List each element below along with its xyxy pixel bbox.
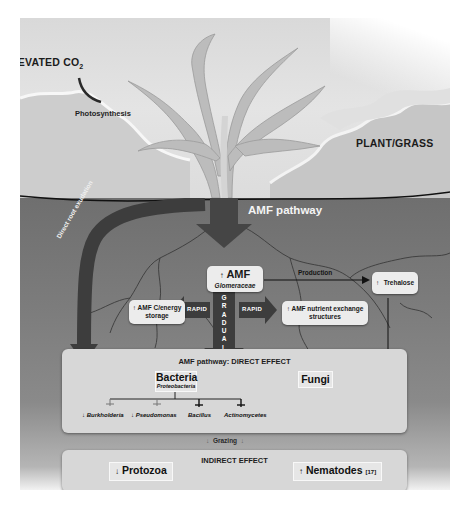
trehalose-box: ↑ Trehalose [372,272,418,294]
direct-effect-title: AMF pathway: DIRECT EFFECT [62,357,407,366]
fungi-box: Fungi [298,371,333,388]
amf-box: ↑ AMF Glomeraceae [207,266,263,292]
rapid-right-label: RAPID [242,306,262,312]
amf-nutrient-exchange-box: ↑ AMF nutrient exchange structures [282,301,368,325]
co2-uptake-arrow-icon [75,76,105,106]
protozoa-box: ↓ Protozoa [109,462,173,481]
genus-burkholderia: ↓ Burkholderia [82,412,124,418]
indirect-effect-panel: INDIRECT EFFECT ↓ Protozoa ↑ Nematodes [… [62,450,407,490]
production-label: Production [298,269,332,276]
genus-actinomycetes: Actinomycetes [224,412,267,418]
gradual-label: G R A D U A L [219,294,229,352]
genus-pseudomonas: ↓ Pseudomonas [131,412,177,418]
rapid-left-label: RAPID [187,306,207,312]
elevated-co2-label: ELEVATED CO2 [20,56,83,70]
direct-effect-panel: AMF pathway: DIRECT EFFECT Bacteria Prot… [62,349,407,433]
photosynthesis-label: Photosynthesis [75,109,131,118]
nematodes-box: ↑ Nematodes [17] [293,462,382,481]
diagram-frame: ELEVATED CO2 Photosynthesis PLANT/GRASS … [20,18,450,490]
bacteria-tree-lines [102,392,252,412]
bacteria-box: Bacteria Proteobacteria [155,371,197,392]
plant-to-amf-arrowhead-icon [196,224,252,248]
plant-grass-label: PLANT/GRASS [356,137,433,149]
genus-bacillus: Bacillus [188,412,211,418]
plant-illustration [120,26,340,201]
grazing-label: ↓ Grazing ↓ [206,437,244,444]
amf-storage-box: ↑ AMF C/energy storage [129,300,185,324]
